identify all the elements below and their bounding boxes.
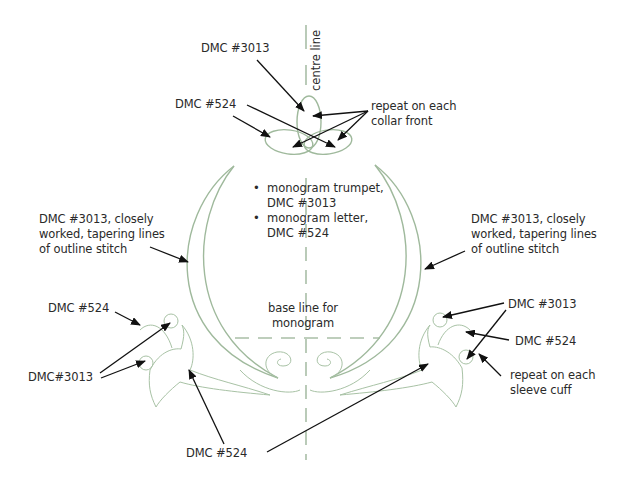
bullet-monogram-letter: monogram letter, DMC #524 <box>253 211 384 241</box>
baseline-label: base line for monogram <box>268 301 338 331</box>
right-outline-stitch-label: DMC #3013, closely worked, tapering line… <box>471 212 597 257</box>
right-cuff-dmc524-label: DMC #524 <box>515 334 576 349</box>
cuff-repeat-label: repeat on each sleeve cuff <box>510 368 595 398</box>
collar-dmc3013-label: DMC #3013 <box>201 41 269 56</box>
centre-scrolls <box>240 352 370 392</box>
collar-repeat-label: repeat on each collar front <box>371 99 456 129</box>
bullet-monogram-trumpet: monogram trumpet, DMC #3013 <box>253 181 384 211</box>
collar-left-petal <box>264 127 315 157</box>
right-cuff-dmc3013-label: DMC #3013 <box>508 297 576 312</box>
bottom-dmc524-label: DMC #524 <box>186 446 247 461</box>
left-outline-stitch-label: DMC #3013, closely worked, tapering line… <box>39 212 165 257</box>
collar-right-petal <box>303 127 354 157</box>
collar-center-petal <box>297 96 321 148</box>
left-cuff-dmc3013-label: DMC#3013 <box>28 370 93 385</box>
right-cuff-motif <box>340 313 473 407</box>
collar-dmc524-label: DMC #524 <box>175 97 236 112</box>
left-cuff-dmc524-label: DMC #524 <box>48 301 109 316</box>
monogram-bullet-list: monogram trumpet, DMC #3013 monogram let… <box>253 181 384 241</box>
centre-line-label: centre line <box>309 30 323 91</box>
collar-motif <box>264 96 354 157</box>
